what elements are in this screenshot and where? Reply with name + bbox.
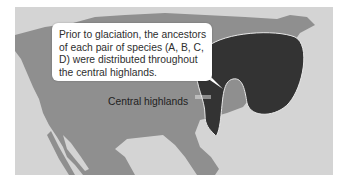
central-highlands-label: Central highlands xyxy=(108,96,188,107)
callout-box: Prior to glaciation, the ancestors of ea… xyxy=(52,23,212,81)
map-frame: Prior to glaciation, the ancestors of ea… xyxy=(15,7,333,175)
callout-text: Prior to glaciation, the ancestors of ea… xyxy=(59,29,211,79)
